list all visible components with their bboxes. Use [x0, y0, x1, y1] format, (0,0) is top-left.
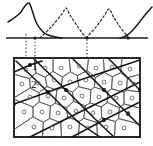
slip-band-node: [138, 88, 142, 92]
baseline-marker-c: [126, 36, 129, 39]
curve-plot-layer: [8, 3, 152, 38]
figure-svg: 12: [0, 0, 153, 146]
slip-band-node: [102, 88, 106, 92]
dashed-peak-1: [40, 8, 86, 38]
figure-canvas: 12: [0, 0, 153, 146]
grain-label-1: 1: [32, 60, 38, 72]
dashed-peak-2: [86, 9, 128, 38]
slip-band-node: [64, 88, 68, 92]
grain-label-2: 2: [31, 78, 37, 90]
slip-band-node: [102, 118, 106, 122]
baseline-layer: [6, 36, 148, 39]
slip-band-node: [46, 90, 50, 94]
solid-peak-left: [8, 3, 62, 38]
slip-band-node: [12, 102, 16, 106]
